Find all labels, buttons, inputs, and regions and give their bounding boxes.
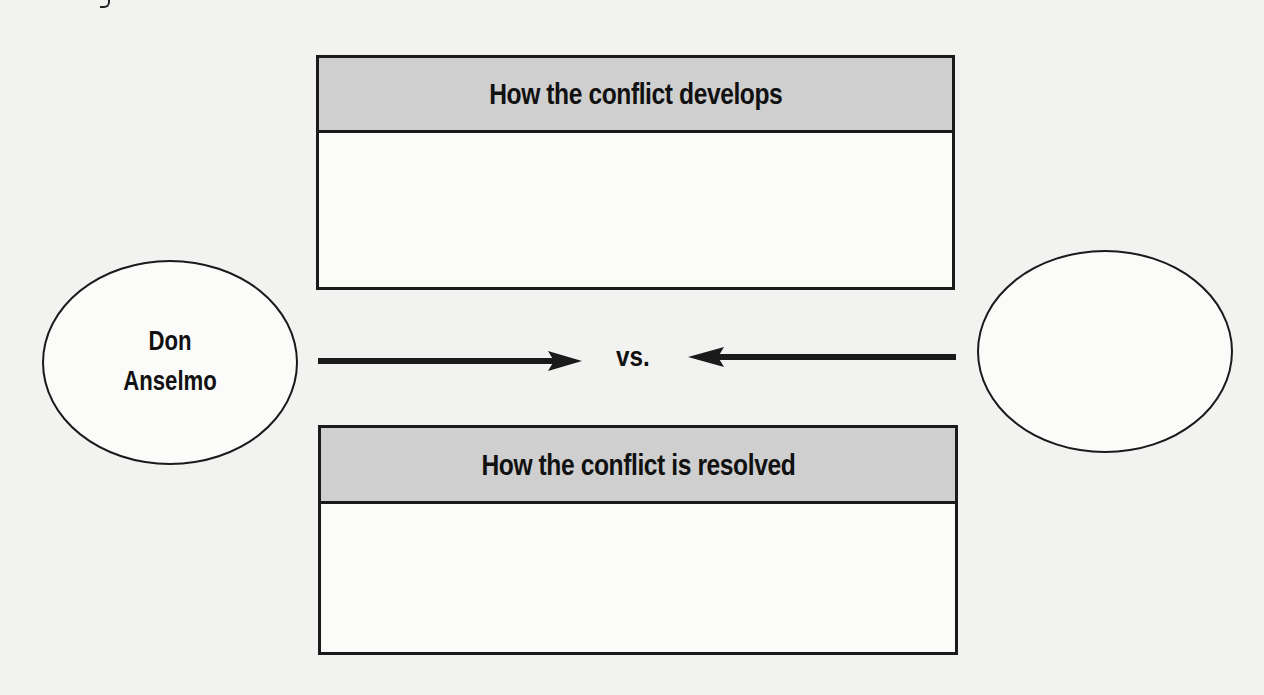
arrow-right-icon xyxy=(316,348,586,374)
conflict-resolved-header: How the conflict is resolved xyxy=(321,428,955,504)
arrow-left-icon xyxy=(684,344,960,370)
stray-pen-mark xyxy=(100,0,110,8)
left-party-ellipse: Don Anselmo xyxy=(42,260,298,465)
versus-label: vs. xyxy=(616,342,650,373)
left-party-label: Don Anselmo xyxy=(123,321,217,401)
left-party-label-line2: Anselmo xyxy=(123,361,217,401)
conflict-resolved-box: How the conflict is resolved xyxy=(318,425,958,655)
left-party-label-line1: Don xyxy=(123,321,217,361)
right-party-ellipse[interactable] xyxy=(977,250,1233,453)
conflict-develops-title: How the conflict develops xyxy=(489,77,782,111)
conflict-develops-box: How the conflict develops xyxy=(316,55,955,290)
conflict-develops-header: How the conflict develops xyxy=(319,58,952,133)
conflict-resolved-title: How the conflict is resolved xyxy=(481,448,795,482)
